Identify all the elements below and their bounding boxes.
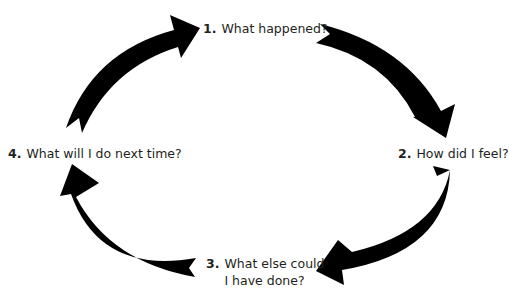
step-1-label: 1.What happened? [203,20,328,37]
step-1-number: 1. [203,21,216,36]
arrow-4-to-1-icon [66,15,200,133]
step-2-label: 2.How did I feel? [398,145,509,162]
step-3-label: 3.What else could I have done? [206,255,324,289]
step-3-number: 3. [206,256,219,271]
step-2-number: 2. [398,146,411,161]
step-3-text: What else could I have done? [224,255,324,289]
arrow-3-to-4-icon [60,164,196,277]
step-2-text: How did I feel? [416,146,508,161]
step-4-label: 4.What will I do next time? [8,145,182,162]
step-1-text: What happened? [221,21,327,36]
arrow-1-to-2-icon [316,24,455,138]
arrow-2-to-3-icon [316,166,450,285]
step-4-text: What will I do next time? [26,146,181,161]
step-4-number: 4. [8,146,21,161]
